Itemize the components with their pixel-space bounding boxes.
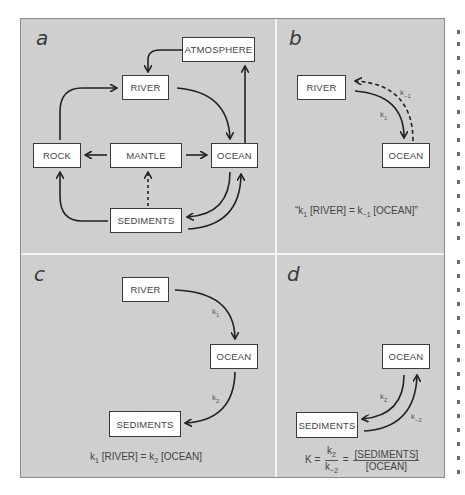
rate-label-d-forward: k2	[380, 392, 387, 403]
rate-label-d-reverse: k−2	[411, 412, 422, 423]
box-c-sediments: SEDIMENTS	[109, 411, 181, 437]
horizontal-divider	[21, 253, 444, 255]
rate-sub: −1	[404, 93, 411, 99]
eq-part: =	[340, 454, 351, 465]
box-ocean: OCEAN	[211, 143, 258, 168]
rate-label-c-2: k2	[212, 393, 219, 404]
rate-sub: −2	[415, 417, 422, 423]
equation-c: k1 [RIVER] = k2 [OCEAN]	[90, 451, 202, 464]
eq-part: [RIVER] =	[307, 205, 357, 216]
box-d-sediments: SEDIMENTS	[296, 412, 358, 438]
rate-sub: 2	[384, 397, 387, 403]
eq-part: K =	[305, 454, 323, 465]
box-river: RIVER	[122, 75, 169, 100]
frac-den: k−2	[325, 461, 338, 476]
adjacent-text-fragments	[455, 20, 465, 480]
rate-label-c-1: k1	[212, 307, 219, 318]
box-atmosphere: ATMOSPHERE	[182, 37, 255, 62]
eq-part: [OCEAN]	[371, 205, 415, 216]
box-b-ocean: OCEAN	[382, 143, 430, 168]
box-d-ocean: OCEAN	[382, 344, 430, 369]
box-c-ocean: OCEAN	[210, 344, 258, 369]
eq-sub: −2	[330, 467, 338, 474]
eq-part: [OCEAN]	[158, 451, 202, 462]
box-sediments: SEDIMENTS	[110, 208, 182, 233]
figure-frame	[20, 18, 445, 478]
eq-sub: −1	[363, 211, 371, 218]
box-b-river: RIVER	[297, 75, 346, 100]
panel-a-letter: a	[36, 26, 48, 50]
equation-d: K = k2k−2 = [SEDIMENTS][OCEAN]	[305, 445, 421, 476]
rate-label-b-forward: k1	[380, 110, 387, 121]
fraction-rates: k2k−2	[325, 445, 338, 476]
eq-part: [RIVER] =	[99, 451, 149, 462]
fraction-concentrations: [SEDIMENTS][OCEAN]	[353, 449, 419, 472]
box-mantle: MANTLE	[110, 143, 182, 168]
rate-sub: 1	[216, 312, 219, 318]
frac-num: [SEDIMENTS]	[353, 449, 419, 461]
panel-b-letter: b	[289, 26, 302, 50]
rate-sub: 1	[384, 115, 387, 121]
rate-sub: 2	[216, 398, 219, 404]
frac-num: k2	[325, 445, 338, 461]
panel-c-letter: c	[34, 262, 45, 286]
rate-label-b-reverse: k−1	[400, 88, 411, 99]
box-rock: ROCK	[33, 143, 81, 168]
frac-den: [OCEAN]	[353, 461, 419, 472]
panel-d-letter: d	[287, 262, 300, 286]
box-c-river: RIVER	[122, 277, 169, 302]
equation-b: “k1 [RIVER] = k−1 [OCEAN]”	[295, 205, 418, 218]
vertical-divider	[275, 19, 277, 477]
eq-sub: 2	[332, 451, 336, 458]
eq-part: ”	[414, 205, 417, 216]
